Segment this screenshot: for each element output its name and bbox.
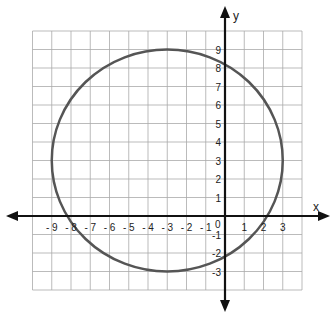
y-tick-label: 8 bbox=[215, 63, 221, 74]
x-tick-label: - 7 bbox=[84, 222, 96, 233]
x-tick-label: 3 bbox=[280, 222, 286, 233]
x-tick-label: - 4 bbox=[142, 222, 154, 233]
origin-label: 0 bbox=[215, 219, 221, 230]
y-axis-down-arrow-icon bbox=[220, 300, 230, 312]
y-tick-label: -1 bbox=[212, 230, 221, 241]
coordinate-plane: xy- 9- 8- 7- 6- 5- 4- 3- 2- 112398765432… bbox=[0, 0, 336, 319]
x-tick-label: - 3 bbox=[161, 222, 173, 233]
y-tick-label: 3 bbox=[215, 156, 221, 167]
x-axis-label: x bbox=[313, 200, 319, 214]
y-tick-label: 1 bbox=[215, 193, 221, 204]
y-tick-label: -2 bbox=[212, 248, 221, 259]
x-tick-label: - 6 bbox=[104, 222, 116, 233]
x-axis-left-arrow-icon bbox=[6, 211, 18, 221]
y-axis-label: y bbox=[233, 9, 239, 23]
y-axis-up-arrow-icon bbox=[220, 6, 230, 18]
y-tick-label: 9 bbox=[215, 45, 221, 56]
x-tick-label: - 8 bbox=[65, 222, 77, 233]
y-tick-label: 5 bbox=[215, 119, 221, 130]
y-tick-label: 6 bbox=[215, 100, 221, 111]
y-tick-label: 4 bbox=[215, 137, 221, 148]
x-tick-label: - 5 bbox=[123, 222, 135, 233]
x-axis-right-arrow-icon bbox=[318, 211, 330, 221]
x-tick-label: - 2 bbox=[181, 222, 193, 233]
x-tick-label: 1 bbox=[241, 222, 247, 233]
y-tick-label: -3 bbox=[212, 267, 221, 278]
y-tick-label: 7 bbox=[215, 82, 221, 93]
x-tick-label: - 9 bbox=[46, 222, 58, 233]
circle-graph: xy- 9- 8- 7- 6- 5- 4- 3- 2- 112398765432… bbox=[0, 0, 336, 319]
y-tick-label: 2 bbox=[215, 174, 221, 185]
x-tick-label: - 1 bbox=[200, 222, 212, 233]
x-tick-label: 2 bbox=[261, 222, 267, 233]
